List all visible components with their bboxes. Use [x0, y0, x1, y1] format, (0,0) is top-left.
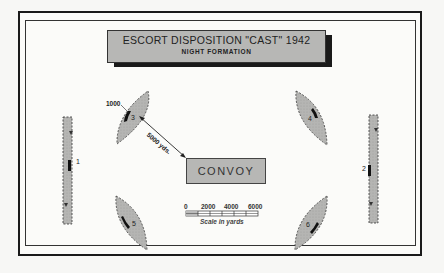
escort-6-label: 6 — [306, 221, 310, 228]
escort-2-station — [368, 115, 378, 223]
escort-2-label: 2 — [362, 165, 366, 172]
convoy-box: CONVOY — [186, 158, 266, 184]
scale-tick-4000: 4000 — [224, 203, 238, 210]
scale-tick-2000: 2000 — [201, 203, 215, 210]
scale-tick-0: 0 — [184, 203, 188, 210]
escort-6-station — [295, 196, 327, 250]
convoy-label: CONVOY — [198, 165, 255, 177]
patrol-width-label: 1000 — [106, 100, 120, 107]
formation-diagram — [0, 0, 444, 273]
scale-tick-6000: 6000 — [248, 203, 262, 210]
escort-5-label: 5 — [132, 220, 136, 227]
escort-1-label: 1 — [76, 158, 80, 165]
scale-bar — [186, 211, 258, 216]
escort-3-label: 3 — [131, 114, 135, 121]
escort-4-label: 4 — [308, 115, 312, 122]
escort-1-station — [63, 117, 73, 224]
scale-caption: Scale in yards — [200, 218, 244, 225]
